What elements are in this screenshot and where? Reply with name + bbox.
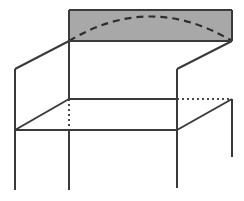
shaded-top-panel [69,10,232,41]
figure-container [0,0,244,201]
technical-drawing-svg [0,0,244,201]
